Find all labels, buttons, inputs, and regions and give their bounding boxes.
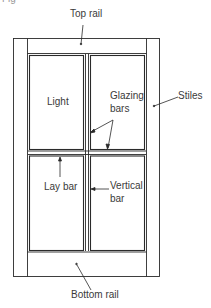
label-stiles: Stiles: [178, 90, 202, 102]
label-vertical-bar-1: Vertical: [110, 180, 143, 192]
label-glazing-bars-2: bars: [110, 103, 129, 115]
outer-frame: [14, 39, 160, 277]
pane-bottom-left: [30, 156, 84, 251]
window-diagram: [0, 0, 211, 308]
label-light: Light: [47, 96, 69, 108]
label-vertical-bar-2: bar: [110, 193, 124, 205]
label-lay-bar: Lay bar: [44, 181, 77, 193]
label-top-rail: Top rail: [70, 8, 102, 20]
label-bottom-rail: Bottom rail: [71, 289, 119, 301]
label-glazing-bars-1: Glazing: [110, 90, 144, 102]
